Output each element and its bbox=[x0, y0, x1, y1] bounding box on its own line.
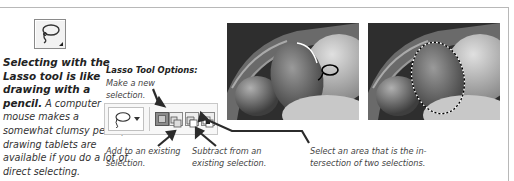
callout-arrows bbox=[0, 0, 514, 181]
